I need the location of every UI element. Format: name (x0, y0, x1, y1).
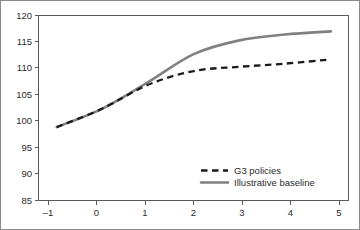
legend-entry-g3-policies: G3 policies (201, 165, 281, 176)
legend-label: G3 policies (234, 165, 281, 176)
y-axis-tick-marks (35, 15, 39, 200)
y-tick-label: 90 (21, 168, 32, 179)
y-axis-tick-labels: 120 115 110 105 100 95 90 85 (16, 10, 32, 206)
x-tick-label: –1 (43, 207, 54, 218)
x-tick-label: 5 (336, 207, 341, 218)
x-tick-label: 2 (191, 207, 196, 218)
x-axis-tick-labels: –1 0 1 2 3 4 5 (43, 207, 342, 218)
line-chart: 120 115 110 105 100 95 90 85 (1, 1, 360, 230)
y-tick-label: 95 (21, 142, 32, 153)
y-tick-label: 110 (17, 62, 32, 73)
x-tick-label: 4 (288, 207, 293, 218)
y-tick-label: 100 (16, 115, 32, 126)
series-line-illustrative-baseline (57, 31, 331, 127)
legend-label: Illustrative baseline (234, 177, 315, 188)
y-tick-label: 120 (16, 10, 32, 21)
x-tick-label: 3 (239, 207, 244, 218)
chart-figure: 120 115 110 105 100 95 90 85 (0, 0, 360, 230)
y-tick-label: 85 (21, 195, 32, 206)
x-tick-label: 0 (94, 207, 99, 218)
y-tick-label: 105 (16, 89, 32, 100)
chart-legend: G3 policies Illustrative baseline (201, 165, 315, 188)
legend-entry-illustrative-baseline: Illustrative baseline (201, 177, 315, 188)
series-line-g3-policies (57, 59, 331, 127)
x-tick-label: 1 (142, 207, 147, 218)
y-tick-label: 115 (17, 36, 32, 47)
